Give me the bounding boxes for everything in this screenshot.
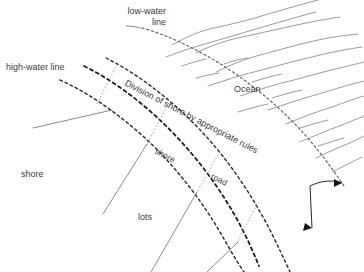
wave-line-11 bbox=[332, 157, 362, 172]
measurement-leader-arrows bbox=[303, 179, 342, 231]
wave-line-short-6 bbox=[238, 104, 268, 112]
wave-line-3 bbox=[196, 17, 340, 53]
wave-line-2 bbox=[166, 12, 316, 57]
shore-division-diagram: low-water line high-water line Ocean sho… bbox=[0, 0, 364, 272]
label-lots: lots bbox=[138, 212, 152, 223]
diagram-canvas bbox=[0, 0, 364, 272]
leader-vertical bbox=[310, 186, 312, 228]
label-low-water-line: low-water line bbox=[74, 6, 166, 28]
ocean-water-lines bbox=[166, 0, 364, 172]
label-high-water-line: high-water line bbox=[6, 62, 65, 73]
wave-line-9 bbox=[300, 116, 364, 142]
wave-line-1 bbox=[172, 0, 318, 45]
wave-line-short-7 bbox=[300, 120, 328, 128]
wave-line-short-3 bbox=[252, 74, 282, 82]
lot-line-4 bbox=[207, 242, 238, 272]
label-shore-zone: shore bbox=[21, 169, 44, 180]
lot-line-2 bbox=[103, 144, 147, 214]
wave-line-7 bbox=[268, 81, 364, 110]
wave-line-short-1 bbox=[182, 59, 206, 66]
arrow-to-high-water bbox=[303, 223, 312, 231]
wave-line-short-8 bbox=[318, 138, 344, 146]
lot-lines bbox=[33, 110, 238, 272]
wave-line-short-4 bbox=[196, 73, 219, 78]
wave-line-5 bbox=[208, 47, 362, 86]
lot-line-1 bbox=[33, 110, 112, 128]
lot-line-3 bbox=[151, 192, 197, 272]
arrow-to-low-water bbox=[334, 179, 342, 187]
label-ocean: Ocean bbox=[234, 84, 261, 95]
wave-line-4 bbox=[216, 34, 358, 72]
wave-line-short-5 bbox=[272, 90, 302, 98]
